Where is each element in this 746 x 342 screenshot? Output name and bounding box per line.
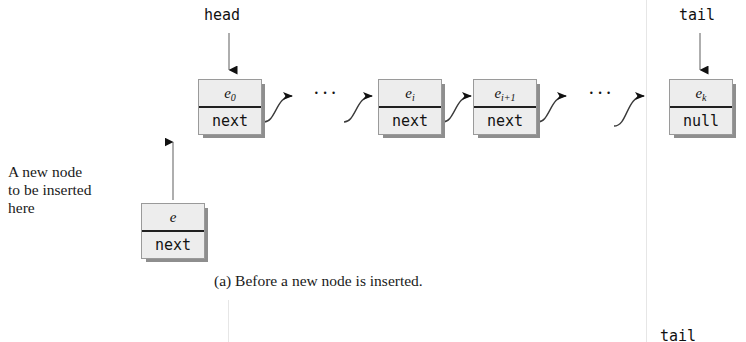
node-e0-value-text: e xyxy=(224,85,231,101)
node-ei-next: next xyxy=(379,108,441,134)
node-new-value-text: e xyxy=(170,209,177,225)
node-ek-value: ek xyxy=(670,80,732,108)
link-e0-to-ellipsis xyxy=(264,96,292,122)
node-ei-subscript: i xyxy=(412,92,415,103)
annotation-line-2: to be inserted xyxy=(8,181,92,199)
figure-caption: (a) Before a new node is inserted. xyxy=(214,272,423,290)
ellipsis-right: ··· xyxy=(588,82,614,105)
figure-canvas: head tail e0 next ei next ei+1 next ek n… xyxy=(0,0,746,342)
node-ei-plus-1[interactable]: ei+1 next xyxy=(473,79,537,135)
node-e0-next: next xyxy=(199,108,261,134)
annotation-line-1: A new node xyxy=(8,163,82,181)
node-ek-next: null xyxy=(670,108,732,134)
node-ei-plus-1-next: next xyxy=(474,108,536,134)
link-ellipsis-to-ek xyxy=(614,96,644,126)
tail-pointer-label: tail xyxy=(679,6,715,24)
node-ei-value: ei xyxy=(379,80,441,108)
node-e0-subscript: 0 xyxy=(231,92,236,103)
node-ei-plus-1-value: ei+1 xyxy=(474,80,536,108)
link-ei1-to-ellipsis xyxy=(538,96,566,122)
head-pointer-label: head xyxy=(204,6,240,24)
node-ei-plus-1-subscript: i+1 xyxy=(501,92,516,103)
annotation-line-3: here xyxy=(8,199,35,217)
connector-layer xyxy=(0,0,746,342)
link-ei-to-ei1 xyxy=(443,96,471,122)
link-ellipsis-to-ei xyxy=(344,96,372,122)
node-new-value: e xyxy=(142,204,204,232)
node-new[interactable]: e next xyxy=(141,203,205,259)
node-ei-value-text: e xyxy=(405,85,412,101)
node-new-next: next xyxy=(142,232,204,258)
ellipsis-left: ··· xyxy=(313,82,339,105)
next-figure-tail-label-partial: tail xyxy=(660,327,696,342)
node-ek[interactable]: ek null xyxy=(669,79,733,135)
node-ei[interactable]: ei next xyxy=(378,79,442,135)
node-ek-subscript: k xyxy=(702,92,706,103)
node-e0[interactable]: e0 next xyxy=(198,79,262,135)
node-e0-value: e0 xyxy=(199,80,261,108)
